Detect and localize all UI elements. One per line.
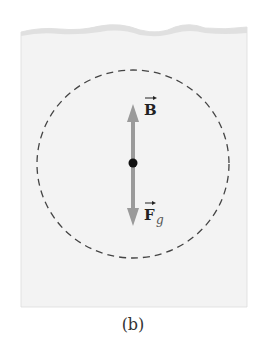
svg-text:B: B [144, 101, 157, 119]
center-dot [129, 159, 138, 168]
svg-text:g: g [156, 213, 164, 227]
svg-text:F: F [144, 206, 155, 224]
figure-caption: (b) [0, 315, 266, 334]
diagram-canvas: B F g [0, 0, 266, 355]
